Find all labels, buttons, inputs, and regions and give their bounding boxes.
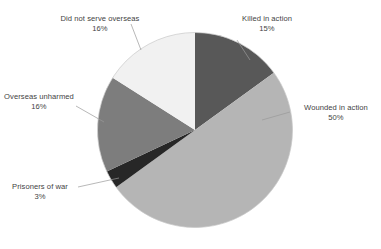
pie-label-prisoners-of-war: Prisoners of war 3%: [4, 182, 76, 201]
pie-label-name: Wounded in action: [295, 103, 377, 113]
pie-label-name: Did not serve overseas: [52, 14, 148, 24]
pie-chart-canvas: [0, 0, 381, 249]
pie-chart: Did not serve overseas 16% Killed in act…: [0, 0, 381, 249]
pie-label-name: Overseas unharmed: [0, 92, 80, 102]
pie-label-wounded-in-action: Wounded in action 50%: [295, 103, 377, 122]
pie-label-percent: 16%: [0, 102, 80, 112]
pie-label-percent: 3%: [4, 192, 76, 202]
pie-label-did-not-serve-overseas: Did not serve overseas 16%: [52, 14, 148, 33]
pie-label-killed-in-action: Killed in action 15%: [230, 14, 304, 33]
pie-label-percent: 15%: [230, 24, 304, 34]
pie-label-name: Killed in action: [230, 14, 304, 24]
pie-label-percent: 16%: [52, 24, 148, 34]
pie-label-overseas-unharmed: Overseas unharmed 16%: [0, 92, 80, 111]
pie-label-percent: 50%: [295, 113, 377, 123]
pie-slices: [98, 32, 293, 227]
pie-label-name: Prisoners of war: [4, 182, 76, 192]
